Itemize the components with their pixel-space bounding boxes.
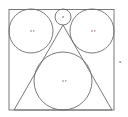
left-circle-center-dot (30, 30, 31, 31)
figure-background (0, 0, 128, 117)
top-small-circle-center-dot (62, 16, 64, 18)
figure-canvas: r r r a (0, 0, 128, 117)
geometry-figure: r r r a (0, 0, 128, 117)
bottom-large-circle-center-dot (62, 80, 63, 81)
right-circle-center-dot (91, 30, 92, 31)
